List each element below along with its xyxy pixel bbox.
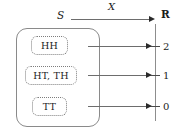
mapping-arrow-head [149,16,155,22]
event-label-ht-th: HT, TH [33,70,69,81]
random-variable-diagram: S X R HH HT, TH TT 2 1 0 [0,0,174,137]
axis-tick-label-2: 2 [163,41,169,52]
real-line-label: R [161,8,170,20]
axis-tick-mark-0 [151,106,160,107]
event-box-tt: TT [32,97,67,116]
mapping-arrow-line [71,19,150,20]
axis-tick-mark-1 [151,75,160,76]
sample-space-label: S [57,9,64,21]
mapping-function-label: X [108,1,115,12]
axis-tick-label-1: 1 [163,70,169,81]
axis-tick-label-0: 0 [163,101,169,112]
event-label-tt: TT [43,101,56,112]
event-arrow-line-hh [88,46,151,47]
event-arrow-line-ht-th [88,75,151,76]
event-label-hh: HH [41,40,58,51]
event-arrow-line-tt [88,106,151,107]
event-box-hh: HH [31,36,68,55]
event-box-ht-th: HT, TH [25,66,77,85]
axis-tick-mark-2 [151,46,160,47]
